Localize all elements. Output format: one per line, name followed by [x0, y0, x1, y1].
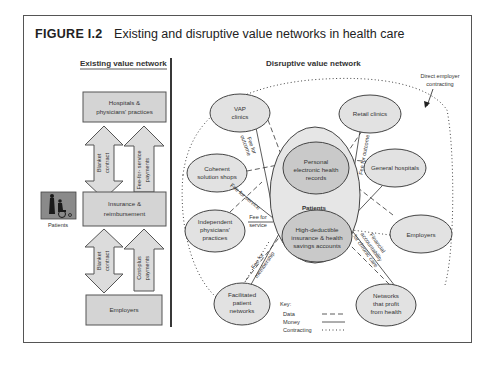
blanket-contract-arrow-top: Blanket contract: [85, 126, 123, 199]
svg-text:contract: contract: [104, 251, 110, 271]
svg-text:Blanket: Blanket: [96, 251, 102, 270]
svg-text:General hospitals: General hospitals: [371, 164, 419, 171]
node-independent-physicians-practices: Independent physicians' practices: [185, 210, 245, 252]
svg-text:Facilitated: Facilitated: [228, 291, 257, 298]
svg-text:Insurance &: Insurance &: [108, 200, 142, 207]
svg-text:clinics: clinics: [232, 113, 249, 120]
disruptive-heading: Disruptive value network: [266, 59, 361, 68]
wheelchair-icon: [41, 192, 76, 219]
svg-text:payments: payments: [144, 158, 150, 182]
node-networks-that-profit: Networks that profit from health: [356, 284, 416, 326]
existing-value-network: Existing value network Hospitals & physi…: [41, 58, 171, 327]
svg-text:Key:: Key:: [280, 301, 292, 307]
fee-for-service-arrow: Fee-for- service payments: [124, 126, 164, 192]
svg-text:Networks: Networks: [373, 292, 399, 299]
svg-text:from health: from health: [371, 308, 403, 315]
blanket-contract-arrow-bottom: Blanket contract: [85, 229, 123, 293]
node-vap-clinics: VAP clinics: [210, 94, 270, 132]
svg-text:practices: practices: [203, 234, 228, 241]
node-personal-electronic-health-records: Personal electronic health records: [283, 142, 349, 194]
legend-key: Key: Data Money Contracting: [280, 301, 345, 333]
svg-text:Independent: Independent: [198, 218, 233, 225]
svg-text:reimbursement: reimbursement: [104, 210, 146, 217]
svg-text:solution shops: solution shops: [197, 173, 237, 180]
existing-heading: Existing value network: [80, 59, 167, 68]
svg-text:Retail clinics: Retail clinics: [353, 110, 387, 117]
node-facilitated-patient-networks: Facilitated patient networks: [214, 283, 270, 325]
svg-text:patient: patient: [233, 299, 252, 306]
svg-text:service: service: [249, 222, 267, 228]
svg-text:Direct employer: Direct employer: [420, 73, 459, 79]
disruptive-value-network: Disruptive value network Direct employer…: [182, 59, 460, 333]
svg-text:that profit: that profit: [373, 300, 399, 307]
svg-text:Coherent: Coherent: [204, 165, 230, 172]
svg-text:networks: networks: [230, 307, 255, 314]
svg-text:electronic health: electronic health: [293, 166, 339, 173]
svg-text:insurance & health: insurance & health: [291, 234, 343, 241]
svg-text:Hospitals &: Hospitals &: [109, 99, 141, 106]
key-data-label: Data: [283, 311, 296, 317]
employers-box: Employers: [86, 295, 162, 325]
svg-text:payments: payments: [144, 256, 150, 280]
fee-for-service-independent-label: Fee for: [249, 214, 267, 220]
svg-text:records: records: [306, 174, 327, 181]
svg-text:contract: contract: [104, 153, 110, 173]
svg-text:physicians' practices: physicians' practices: [96, 108, 153, 115]
svg-text:VAP: VAP: [234, 105, 246, 112]
svg-text:Blanket: Blanket: [96, 153, 102, 172]
node-general-hospitals: General hospitals: [364, 149, 426, 187]
node-high-deductible-insurance: High-deductible insurance & health savin…: [282, 210, 352, 262]
insurance-box: Insurance & reimbursement: [83, 192, 166, 226]
patients-label: Patients: [48, 222, 68, 228]
svg-text:physicians': physicians': [200, 226, 230, 233]
svg-text:Employers: Employers: [109, 306, 138, 313]
hospitals-box: Hospitals & physicians' practices: [83, 92, 166, 122]
cost-plus-arrow: Cost-plus payments: [124, 229, 164, 291]
svg-text:savings accounts: savings accounts: [293, 242, 340, 249]
node-employers: Employers: [390, 215, 452, 253]
svg-text:Cost-plus: Cost-plus: [136, 256, 142, 280]
node-retail-clinics: Retail clinics: [339, 95, 401, 133]
value-network-diagram: Existing value network Hospitals & physi…: [0, 0, 498, 367]
svg-text:Personal: Personal: [304, 158, 328, 165]
svg-text:Employers: Employers: [406, 231, 435, 238]
key-money-label: Money: [283, 319, 300, 325]
svg-text:Fee-for- service: Fee-for- service: [136, 150, 142, 189]
svg-text:High-deductible: High-deductible: [296, 226, 340, 233]
key-contracting-label: Contracting: [283, 327, 312, 333]
svg-text:contracting: contracting: [426, 81, 453, 87]
fee-for-service-coherent-label: Fee for service: [229, 182, 261, 210]
